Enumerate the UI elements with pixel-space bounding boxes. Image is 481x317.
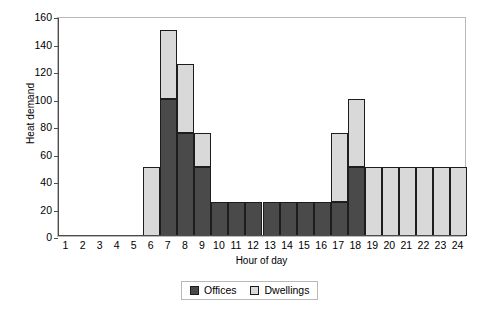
bar-segment-dwellings — [160, 30, 177, 99]
x-tick-label: 24 — [449, 239, 466, 251]
x-tick-label: 18 — [347, 239, 364, 251]
legend-swatch-dwellings — [250, 286, 259, 295]
x-tick-label: 20 — [381, 239, 398, 251]
y-tick-mark — [54, 46, 58, 47]
x-tick-label: 7 — [159, 239, 176, 251]
bar-segment-dwellings — [177, 64, 194, 133]
y-tick-label: 140 — [14, 40, 52, 50]
bar-column — [331, 133, 348, 236]
legend-item-offices: Offices — [190, 285, 236, 296]
chart-legend: OfficesDwellings — [181, 281, 318, 300]
bar-segment-dwellings — [416, 167, 433, 236]
y-axis-line — [58, 18, 59, 236]
x-tick-label: 21 — [398, 239, 415, 251]
bar-column — [348, 99, 365, 237]
y-tick-label: 0 — [14, 232, 52, 242]
bar-column — [450, 167, 467, 236]
bar-segment-offices — [331, 202, 348, 236]
bar-segment-offices — [314, 202, 331, 236]
bar-column — [228, 202, 245, 236]
bar-segment-dwellings — [348, 99, 365, 168]
bar-column — [433, 167, 450, 236]
x-tick-label: 17 — [330, 239, 347, 251]
plot-area — [57, 17, 466, 237]
bar-column — [160, 30, 177, 236]
x-tick-label: 9 — [193, 239, 210, 251]
bar-segment-dwellings — [450, 167, 467, 236]
bar-segment-dwellings — [433, 167, 450, 236]
x-tick-label: 19 — [364, 239, 381, 251]
y-tick-mark — [54, 211, 58, 212]
bar-segment-dwellings — [399, 167, 416, 236]
y-tick-label: 20 — [14, 205, 52, 215]
bar-segment-offices — [194, 167, 211, 236]
bar-column — [143, 167, 160, 236]
bar-column — [314, 202, 331, 236]
x-tick-label: 14 — [279, 239, 296, 251]
bar-column — [399, 167, 416, 236]
bar-segment-dwellings — [365, 167, 382, 236]
x-axis-line — [58, 235, 465, 236]
bar-segment-dwellings — [194, 133, 211, 167]
x-tick-label: 12 — [244, 239, 261, 251]
bar-column — [382, 167, 399, 236]
bar-column — [365, 167, 382, 236]
y-tick-mark — [54, 128, 58, 129]
legend-swatch-offices — [190, 286, 199, 295]
x-tick-label: 5 — [125, 239, 142, 251]
x-tick-label: 13 — [262, 239, 279, 251]
y-tick-mark — [54, 156, 58, 157]
y-tick-label: 40 — [14, 177, 52, 187]
bar-segment-dwellings — [331, 133, 348, 202]
legend-item-dwellings: Dwellings — [250, 285, 309, 296]
bar-segment-dwellings — [382, 167, 399, 236]
x-tick-label: 22 — [415, 239, 432, 251]
x-tick-label: 8 — [176, 239, 193, 251]
bar-segment-offices — [177, 133, 194, 236]
y-tick-label: 100 — [14, 95, 52, 105]
bar-segment-offices — [280, 202, 297, 236]
bar-segment-offices — [245, 202, 262, 236]
x-tick-label: 16 — [313, 239, 330, 251]
y-tick-label: 160 — [14, 12, 52, 22]
legend-label: Dwellings — [264, 285, 309, 296]
y-tick-label: 80 — [14, 122, 52, 132]
x-tick-label: 2 — [74, 239, 91, 251]
bar-segment-offices — [160, 99, 177, 237]
bar-column — [177, 64, 194, 236]
y-tick-mark — [54, 101, 58, 102]
bar-segment-offices — [297, 202, 314, 236]
heat-demand-bar-chart: Heat demand 020406080100120140160 123456… — [0, 0, 481, 317]
bar-column — [194, 133, 211, 236]
y-tick-label: 120 — [14, 67, 52, 77]
x-axis-tick-labels: 123456789101112131415161718192021222324 — [57, 239, 466, 253]
y-tick-mark — [54, 18, 58, 19]
bar-column — [245, 202, 262, 236]
y-tick-mark — [54, 73, 58, 74]
x-tick-label: 6 — [142, 239, 159, 251]
x-axis-title: Hour of day — [57, 255, 466, 266]
x-tick-label: 3 — [91, 239, 108, 251]
bar-segment-dwellings — [143, 167, 160, 236]
x-tick-label: 15 — [296, 239, 313, 251]
bar-segment-offices — [211, 202, 228, 236]
bar-column — [297, 202, 314, 236]
y-tick-mark — [54, 183, 58, 184]
bar-column — [211, 202, 228, 236]
bar-segment-offices — [348, 167, 365, 236]
y-axis-tick-labels: 020406080100120140160 — [14, 17, 52, 237]
legend-label: Offices — [204, 285, 236, 296]
x-tick-label: 23 — [432, 239, 449, 251]
x-tick-label: 1 — [57, 239, 74, 251]
x-tick-label: 4 — [108, 239, 125, 251]
plot-inner — [58, 18, 465, 236]
bar-column — [263, 202, 280, 236]
y-tick-label: 60 — [14, 150, 52, 160]
x-tick-label: 11 — [227, 239, 244, 251]
bar-column — [280, 202, 297, 236]
bar-segment-offices — [263, 202, 280, 236]
x-tick-label: 10 — [210, 239, 227, 251]
bar-column — [416, 167, 433, 236]
bar-segment-offices — [228, 202, 245, 236]
